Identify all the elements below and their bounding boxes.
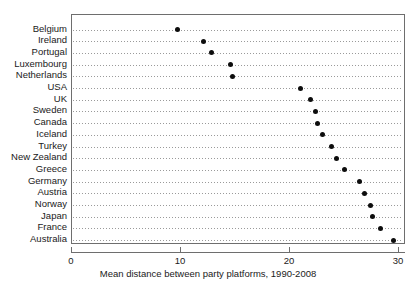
y-axis-label-sweden: Sweden bbox=[33, 105, 67, 115]
data-point bbox=[378, 226, 383, 231]
data-point bbox=[230, 74, 235, 79]
data-point bbox=[298, 86, 303, 91]
y-axis-label-turkey: Turkey bbox=[38, 141, 67, 151]
data-point bbox=[370, 214, 375, 219]
gridline bbox=[73, 182, 403, 183]
x-axis-line bbox=[71, 252, 405, 253]
gridline bbox=[73, 170, 403, 171]
y-axis-label-usa: USA bbox=[47, 82, 67, 92]
x-axis-tick-label: 20 bbox=[284, 255, 295, 266]
gridline bbox=[73, 147, 403, 148]
data-point bbox=[320, 132, 325, 137]
data-point bbox=[228, 62, 233, 67]
y-axis-label-belgium: Belgium bbox=[33, 24, 67, 34]
y-axis-label-portugal: Portugal bbox=[32, 47, 67, 57]
data-point bbox=[313, 109, 318, 114]
y-axis-label-greece: Greece bbox=[36, 164, 67, 174]
data-point bbox=[201, 39, 206, 44]
gridline bbox=[73, 30, 403, 31]
x-axis-tick bbox=[180, 247, 181, 252]
data-point bbox=[175, 27, 180, 32]
gridline bbox=[73, 65, 403, 66]
y-axis-label-japan: Japan bbox=[41, 211, 67, 221]
gridline bbox=[73, 205, 403, 206]
x-axis-tick bbox=[71, 247, 72, 252]
x-axis-tick bbox=[289, 247, 290, 252]
data-point bbox=[209, 50, 214, 55]
y-axis-label-uk: UK bbox=[54, 94, 67, 104]
gridline bbox=[73, 100, 403, 101]
x-axis-tick-label: 0 bbox=[68, 255, 73, 266]
data-point bbox=[362, 191, 367, 196]
gridline bbox=[73, 123, 403, 124]
gridline bbox=[73, 76, 403, 77]
data-point bbox=[368, 203, 373, 208]
x-axis-tick-label: 30 bbox=[393, 255, 404, 266]
gridline bbox=[73, 217, 403, 218]
gridline bbox=[73, 53, 403, 54]
plot-area bbox=[72, 15, 404, 243]
gridline bbox=[73, 111, 403, 112]
y-axis-label-luxembourg: Luxembourg bbox=[14, 59, 67, 69]
data-point bbox=[357, 179, 362, 184]
gridline bbox=[73, 158, 403, 159]
data-point bbox=[342, 167, 347, 172]
x-axis-title: Mean distance between party platforms, 1… bbox=[0, 268, 416, 280]
x-axis-tick bbox=[398, 247, 399, 252]
gridline bbox=[73, 88, 403, 89]
y-axis-label-iceland: Iceland bbox=[36, 129, 67, 139]
gridline bbox=[73, 193, 403, 194]
y-axis-label-canada: Canada bbox=[34, 117, 67, 127]
y-axis-label-germany: Germany bbox=[28, 176, 67, 186]
y-axis-label-france: France bbox=[37, 222, 67, 232]
y-axis-label-netherlands: Netherlands bbox=[16, 70, 67, 80]
gridline bbox=[73, 240, 403, 241]
y-axis-label-new-zealand: New Zealand bbox=[11, 152, 67, 162]
data-point bbox=[315, 121, 320, 126]
gridline bbox=[73, 41, 403, 42]
data-point bbox=[334, 156, 339, 161]
y-axis-label-ireland: Ireland bbox=[38, 35, 67, 45]
dot-plot-figure: BelgiumIrelandPortugalLuxembourgNetherla… bbox=[0, 0, 416, 287]
gridline bbox=[73, 135, 403, 136]
x-axis-tick-label: 10 bbox=[175, 255, 186, 266]
plot-frame bbox=[71, 14, 405, 244]
data-point bbox=[308, 97, 313, 102]
y-axis-label-norway: Norway bbox=[35, 199, 67, 209]
y-axis-label-austria: Austria bbox=[37, 187, 67, 197]
data-point bbox=[329, 144, 334, 149]
y-axis-label-australia: Australia bbox=[30, 234, 67, 244]
data-point bbox=[391, 238, 396, 243]
gridline bbox=[73, 228, 403, 229]
